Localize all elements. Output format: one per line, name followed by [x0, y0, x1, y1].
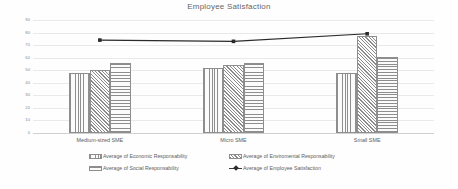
- bar: [69, 73, 89, 133]
- bar: [244, 63, 264, 133]
- legend-swatch-icon: [89, 154, 102, 159]
- bar: [377, 57, 397, 133]
- chart-legend: Average of Economic ResponsabilityAverag…: [0, 150, 458, 174]
- bar: [90, 70, 110, 133]
- y-axis-tick-label: 40: [25, 81, 30, 85]
- line-data-point-marker: [98, 38, 102, 42]
- y-axis-tick-label: 20: [25, 106, 30, 110]
- legend-item[interactable]: Average of Social Responsability: [89, 165, 229, 171]
- legend-item[interactable]: Average of Employee Satisfaction: [229, 165, 369, 171]
- legend-item-label: Average of Enviromental Responsability: [243, 153, 335, 159]
- gridline: [33, 33, 434, 34]
- chart-title: Employee Satisfaction: [0, 2, 458, 11]
- x-axis-category-label: Micro SME: [220, 137, 246, 143]
- legend-item-label: Average of Social Responsability: [103, 165, 179, 171]
- gridline: [33, 20, 434, 21]
- legend-row: Average of Social ResponsabilityAverage …: [0, 162, 458, 174]
- legend-line-marker-icon: [229, 166, 242, 171]
- plot-area: 0102030405060708090: [33, 20, 434, 133]
- employee-satisfaction-chart: Employee Satisfaction 010203040506070809…: [0, 0, 458, 189]
- y-axis-tick-label: 10: [25, 118, 30, 122]
- y-axis-tick-label: 80: [25, 30, 30, 34]
- legend-swatch-icon: [89, 166, 102, 171]
- legend-swatch-icon: [229, 154, 242, 159]
- legend-item-label: Average of Employee Satisfaction: [243, 165, 321, 171]
- y-axis-tick-label: 90: [25, 18, 30, 22]
- bar: [336, 73, 356, 133]
- bar: [223, 65, 243, 133]
- legend-row: Average of Economic ResponsabilityAverag…: [0, 150, 458, 162]
- y-axis-tick-label: 60: [25, 56, 30, 60]
- line-data-point-marker: [232, 40, 236, 44]
- gridline: [33, 133, 434, 134]
- line-path: [100, 34, 367, 42]
- bar: [357, 36, 377, 133]
- y-axis-tick-label: 70: [25, 43, 30, 47]
- y-axis-tick-label: 0: [28, 131, 30, 135]
- legend-item[interactable]: Average of Economic Responsability: [89, 153, 229, 159]
- bar: [203, 68, 223, 133]
- x-axis-category-label: Medium-sized SME: [76, 137, 123, 143]
- y-axis-tick-label: 50: [25, 68, 30, 72]
- y-axis-tick-label: 30: [25, 93, 30, 97]
- bar: [110, 63, 130, 133]
- legend-item-label: Average of Economic Responsability: [103, 153, 187, 159]
- legend-item[interactable]: Average of Enviromental Responsability: [229, 153, 369, 159]
- x-axis-category-label: Small SME: [354, 137, 381, 143]
